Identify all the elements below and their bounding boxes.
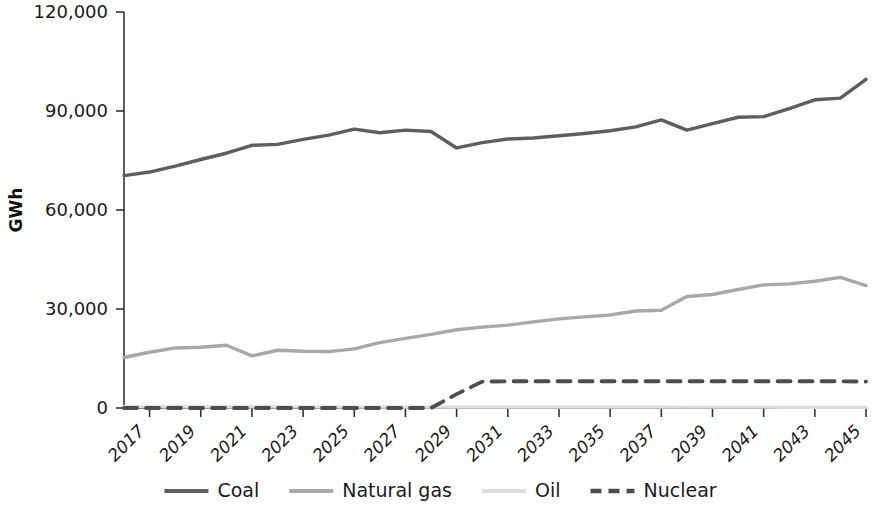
y-tick-label: 60,000 <box>45 199 108 220</box>
chart-svg: GWh 030,00060,00090,000120,000 201720192… <box>0 0 881 514</box>
x-tick-label: 2029 <box>411 421 456 466</box>
x-tick-label: 2027 <box>360 421 405 466</box>
legend-label-oil: Oil <box>535 479 561 501</box>
data-series-group <box>124 79 866 408</box>
series-line-coal <box>124 79 866 175</box>
chart-legend: CoalNatural gasOilNuclear <box>164 479 716 501</box>
series-line-natural-gas <box>124 277 866 357</box>
y-tick-label: 120,000 <box>34 1 108 22</box>
x-tick-label: 2023 <box>257 421 302 466</box>
x-tick-label: 2025 <box>308 421 353 466</box>
x-tick-label: 2039 <box>667 421 712 466</box>
x-tick-labels: 2017201920212023202520272029203120332035… <box>104 421 865 466</box>
x-tick-label: 2021 <box>206 421 251 466</box>
legend-label-coal: Coal <box>217 479 259 501</box>
y-axis-title-group: GWh <box>6 188 26 233</box>
legend-label-natural-gas: Natural gas <box>342 479 452 501</box>
y-tick-label: 90,000 <box>45 100 108 121</box>
legend-label-nuclear: Nuclear <box>643 479 716 501</box>
y-tick-marks <box>116 12 124 408</box>
x-tick-label: 2033 <box>513 421 558 466</box>
x-tick-label: 2045 <box>820 421 865 466</box>
x-tick-label: 2019 <box>155 421 200 466</box>
x-tick-label: 2041 <box>718 421 763 466</box>
x-tick-label: 2037 <box>615 421 660 466</box>
line-chart: GWh 030,00060,00090,000120,000 201720192… <box>0 0 881 514</box>
series-line-nuclear <box>124 381 866 408</box>
y-tick-labels: 030,00060,00090,000120,000 <box>34 1 108 418</box>
y-tick-label: 0 <box>97 397 108 418</box>
x-tick-label: 2043 <box>769 421 814 466</box>
y-tick-label: 30,000 <box>45 298 108 319</box>
x-tick-label: 2031 <box>462 421 507 466</box>
y-axis-title: GWh <box>6 188 26 233</box>
x-tick-label: 2035 <box>564 421 609 466</box>
x-tick-label: 2017 <box>104 421 149 466</box>
